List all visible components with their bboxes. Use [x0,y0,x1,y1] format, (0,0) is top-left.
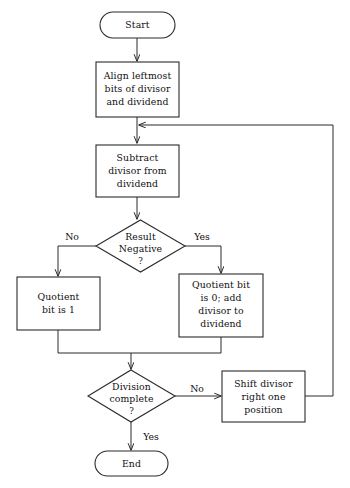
start-label: Start [125,19,149,30]
subtract-label-line2: divisor from [108,165,167,176]
division-complete-label-line2: complete [109,393,153,404]
edge-label-division-complete-yes: Yes [142,431,159,442]
node-result-negative: Result Negative ? [96,220,185,272]
edge-label-division-complete-no: No [190,383,204,394]
node-start: Start [100,12,175,38]
node-division-complete: Division complete ? [88,370,175,422]
edge-label-result-negative-yes: Yes [193,231,210,242]
shift-divisor-label-line3: position [244,404,282,415]
node-quotient-zero: Quotient bit is 0; add divisor to divide… [179,274,263,337]
align-label-line3: and dividend [106,96,168,107]
shift-divisor-label-line1: Shift divisor [234,378,293,389]
quotient-one-label-line1: Quotient [38,291,80,302]
align-label-line1: Align leftmost [103,70,172,81]
edge-label-result-negative-no: No [65,231,79,242]
quotient-zero-label-line3: divisor to [198,305,244,316]
result-negative-label-line1: Result [125,231,156,242]
result-negative-label-line3: ? [138,256,143,266]
end-label: End [122,458,141,469]
node-align: Align leftmost bits of divisor and divid… [96,62,179,117]
quotient-one-label-line2: bit is 1 [42,304,75,315]
edge-quotient-one-to-merge [58,330,131,353]
node-quotient-one: Quotient bit is 1 [17,277,100,330]
align-label-line2: bits of divisor [105,83,171,94]
subtract-label-line3: dividend [117,178,158,189]
flowchart-canvas: Start Align leftmost bits of divisor and… [0,0,350,488]
node-shift-divisor: Shift divisor right one position [222,371,305,422]
division-complete-label-line3: ? [129,406,134,416]
quotient-zero-label-line4: dividend [200,318,241,329]
quotient-zero-label-line1: Quotient bit [192,279,250,290]
node-subtract: Subtract divisor from dividend [96,145,179,197]
edge-quotient-zero-to-merge [131,337,221,353]
flowchart-svg: Start Align leftmost bits of divisor and… [0,0,350,488]
division-complete-label-line1: Division [112,381,151,392]
subtract-label-line1: Subtract [117,152,159,163]
node-end: End [95,451,168,476]
edge-decision1-no-to-quotient-one [58,246,96,276]
quotient-zero-label-line2: is 0; add [200,292,241,303]
shift-divisor-label-line2: right one [241,391,285,402]
edge-decision1-yes-to-quotient-zero [185,246,221,273]
result-negative-label-line2: Negative [119,243,163,254]
